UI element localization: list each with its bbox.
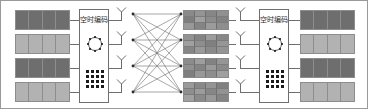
cell [301, 35, 314, 53]
tx-antenna-2-icon [116, 55, 127, 63]
rx-out-line-3 [289, 92, 300, 93]
tx-antenna-3-icon [116, 79, 127, 87]
16-qam-constellation-icon [86, 70, 104, 88]
tx-input-line-1 [70, 44, 79, 45]
tx-input-line-3 [70, 92, 79, 93]
tx-data-block-0 [15, 10, 70, 30]
rx-out-line-2 [289, 68, 300, 69]
rx-data-block-2 [300, 58, 355, 78]
cell [328, 35, 341, 53]
rx-data-streams [300, 10, 355, 102]
cell [341, 59, 354, 77]
cell [314, 11, 327, 29]
rx-out-line-1 [289, 44, 300, 45]
tx-data-block-3 [15, 82, 70, 102]
cell [16, 83, 29, 101]
rx-data-block-1 [300, 34, 355, 54]
cell [301, 83, 314, 101]
tx-data-block-2 [15, 58, 70, 78]
tx-data-streams [15, 10, 70, 102]
rx-data-block-3 [300, 82, 355, 102]
tx-out-line-3 [109, 92, 121, 93]
cell [43, 11, 56, 29]
coded-symbol-block-0 [183, 10, 229, 30]
rx-feed-line-0 [240, 20, 259, 21]
mimo-system-diagram: 空时编码 [0, 0, 368, 109]
tx-out-line-2 [109, 68, 121, 69]
cell [56, 11, 69, 29]
coded-symbol-block-1 [183, 34, 229, 54]
tx-out-line-1 [109, 44, 121, 45]
cell [16, 59, 29, 77]
rx-stub-3 [229, 92, 236, 93]
cell [341, 83, 354, 101]
cell [341, 35, 354, 53]
cell [43, 59, 56, 77]
cell [29, 35, 42, 53]
cell [341, 11, 354, 29]
tx-out-line-0 [109, 20, 121, 21]
tx-input-line-0 [70, 20, 79, 21]
16-qam-constellation-icon [266, 70, 284, 88]
cell [16, 35, 29, 53]
cell [29, 59, 42, 77]
tx-input-line-2 [70, 68, 79, 69]
rx-stub-2 [229, 68, 236, 69]
rx-feed-line-1 [240, 44, 259, 45]
space-time-encoder[interactable]: 空时编码 [79, 9, 109, 103]
cell [43, 35, 56, 53]
rx-feed-line-2 [240, 68, 259, 69]
cell [328, 83, 341, 101]
cell [328, 11, 341, 29]
rx-feed-line-3 [240, 92, 259, 93]
coded-symbol-block-2 [183, 58, 229, 78]
cell [56, 59, 69, 77]
mimo-channel-graph [131, 10, 183, 98]
rx-data-block-0 [300, 10, 355, 30]
cell [29, 11, 42, 29]
cell [314, 35, 327, 53]
space-time-decoder[interactable]: 空时编码 [259, 9, 289, 103]
tx-antenna-0-icon [116, 7, 127, 15]
cell [301, 59, 314, 77]
coded-symbol-block-3 [183, 82, 229, 102]
tx-riser-3 [121, 86, 122, 93]
space-time-decoder-label: 空时编码 [260, 16, 288, 24]
space-time-encoder-label: 空时编码 [80, 16, 108, 24]
rx-stub-0 [229, 20, 236, 21]
8-psk-constellation-icon [88, 37, 102, 51]
cell [314, 83, 327, 101]
rx-out-line-0 [289, 20, 300, 21]
8-psk-constellation-icon [268, 37, 282, 51]
tx-antenna-1-icon [116, 31, 127, 39]
cell [314, 59, 327, 77]
cell [29, 83, 42, 101]
cell [16, 11, 29, 29]
tx-riser-2 [121, 62, 122, 69]
cell [56, 35, 69, 53]
tx-riser-0 [121, 14, 122, 21]
tx-data-block-1 [15, 34, 70, 54]
coded-symbol-matrices [183, 10, 229, 102]
cell [43, 83, 56, 101]
cell [328, 59, 341, 77]
rx-stub-1 [229, 44, 236, 45]
cell [301, 11, 314, 29]
tx-riser-1 [121, 38, 122, 45]
cell [56, 83, 69, 101]
